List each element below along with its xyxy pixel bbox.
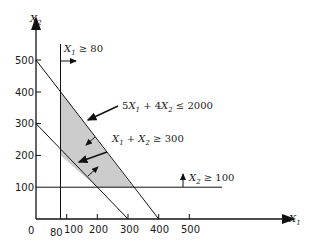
x-tick-label: 400 [150, 224, 169, 235]
y-tick-label: 300 [15, 118, 34, 129]
y-tick-label: 100 [15, 182, 34, 193]
x-tick-label: 300 [120, 224, 139, 235]
y-tick-label: 400 [15, 87, 34, 98]
x-tick-label: 200 [89, 224, 108, 235]
constraint-label-x1-ge-80: X1 ≥ 80 [63, 43, 103, 57]
constraint-label-x2-ge-100: X2 ≥ 100 [188, 172, 234, 186]
y-tick-label: 500 [15, 55, 34, 66]
constraint-label-x1-x2-ge-300: X1 + X2 ≥ 300 [111, 133, 184, 147]
pointer-arrow-icon [88, 106, 118, 120]
x-tick-label: 100 [64, 224, 83, 235]
constraint-label-5x1-4x2-le-2000: 5X1 + 4X2 ≤ 2000 [122, 100, 213, 114]
x-tick-label: 500 [181, 224, 200, 235]
x-axis-label: X1 [288, 213, 301, 227]
x-tick-label: 80 [50, 227, 63, 238]
lp-feasible-region-diagram: X2 X1 0 80 100 200 300 400 500 500 400 3… [0, 0, 312, 245]
origin-label: 0 [28, 225, 34, 236]
y-tick-label: 200 [15, 150, 34, 161]
